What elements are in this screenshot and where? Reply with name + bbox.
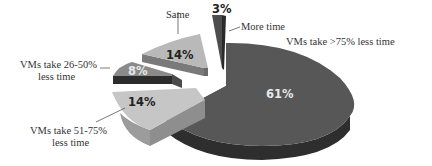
label-more: More time [241, 21, 285, 32]
label-51-75-line1: VMs take 51-75% [30, 125, 107, 136]
label-26-50-line2: less time [38, 71, 75, 82]
pct-gt75: 61% [266, 87, 294, 101]
slice-more-time [212, 15, 226, 70]
pct-26-50: 8% [128, 64, 148, 78]
pct-more: 3% [212, 2, 232, 16]
pct-same: 14% [166, 48, 194, 62]
label-51-75-line2: less time [52, 137, 89, 148]
pct-51-75: 14% [128, 95, 156, 109]
label-same: Same [166, 9, 190, 20]
label-gt75: VMs take >75% less time [286, 36, 395, 47]
pie-chart: 14% 3% 8% 14% 61% Same More time VMs tak… [0, 0, 432, 166]
label-26-50-line1: VMs take 26-50% [20, 59, 97, 70]
